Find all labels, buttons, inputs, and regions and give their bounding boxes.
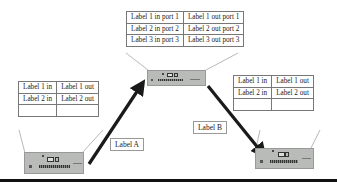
table-cell: Label 1 out [272, 76, 314, 88]
table-cell: Label 3 out port 3 [183, 35, 244, 47]
table-cell: Label 2 in [234, 87, 272, 99]
table-cell: Label 3 in port 3 [127, 35, 184, 47]
left-label-table: Label 1 in Label 1 out Label 2 in Label … [18, 81, 99, 117]
table-cell: Label 1 out port 1 [183, 12, 244, 24]
center-router-icon [147, 70, 206, 86]
table-cell: Label 2 in [19, 93, 57, 105]
table-row: Label 2 in Label 2 out [19, 93, 99, 105]
table-cell: Label 1 in [19, 82, 57, 94]
right-router-icon [255, 148, 314, 169]
table-cell: Label 2 in port 2 [127, 23, 184, 35]
table-cell: Label 2 out port 2 [183, 23, 244, 35]
table-row: Label 1 in port 1 Label 1 out port 1 [127, 12, 244, 24]
table-row: Label 1 in Label 1 out [19, 82, 99, 94]
table-row: Label 1 in Label 1 out [234, 76, 314, 88]
center-label-table: Label 1 in port 1 Label 1 out port 1 Lab… [126, 11, 244, 47]
right-label-table: Label 1 in Label 1 out Label 2 in Label … [233, 75, 314, 111]
table-cell: Label 1 out [57, 82, 99, 94]
table-row [234, 99, 314, 111]
table-cell [234, 99, 272, 111]
table-cell [19, 105, 57, 117]
table-cell: Label 2 out [272, 87, 314, 99]
table-cell: Label 1 in [234, 76, 272, 88]
table-row [19, 105, 99, 117]
arrow-a-label: Label A [110, 138, 144, 151]
bottom-divider [0, 179, 337, 182]
table-row: Label 3 in port 3 Label 3 out port 3 [127, 35, 244, 47]
table-cell: Label 2 out [57, 93, 99, 105]
table-row: Label 2 in port 2 Label 2 out port 2 [127, 23, 244, 35]
table-row: Label 2 in Label 2 out [234, 87, 314, 99]
diagram-canvas: Label 1 in port 1 Label 1 out port 1 Lab… [0, 0, 337, 185]
table-cell [272, 99, 314, 111]
left-router-icon [24, 152, 84, 174]
table-cell: Label 1 in port 1 [127, 12, 184, 24]
arrow-b-label: Label B [193, 121, 227, 134]
table-cell [57, 105, 99, 117]
